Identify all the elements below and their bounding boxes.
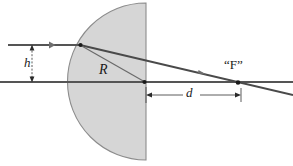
- center-point: [142, 80, 146, 84]
- radius-label: R: [99, 63, 108, 77]
- focus-label: “F”: [224, 58, 243, 71]
- entry-point: [78, 43, 82, 47]
- figure-canvas: [0, 0, 293, 166]
- incident-ray-direction-marker: [49, 42, 56, 49]
- height-label: h: [24, 56, 31, 69]
- focal-point: [236, 80, 241, 85]
- distance-label: d: [186, 86, 193, 99]
- distance-dimension: [146, 87, 241, 103]
- optics-figure: h R d “F”: [0, 0, 293, 166]
